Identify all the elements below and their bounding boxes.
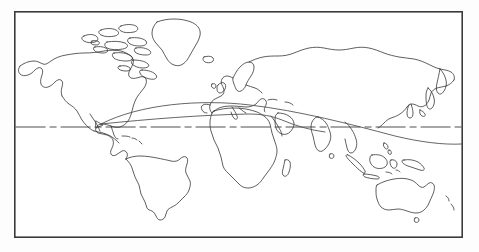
world-map-figure <box>0 0 479 252</box>
map-border <box>15 12 462 237</box>
map-page <box>0 0 479 252</box>
